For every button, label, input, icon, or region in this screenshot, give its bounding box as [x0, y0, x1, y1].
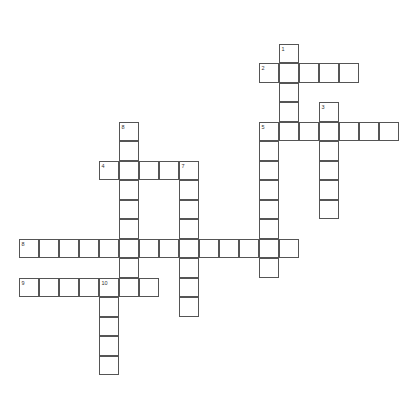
- crossword-cell[interactable]: [179, 297, 199, 317]
- clue-number: 1: [282, 46, 285, 52]
- crossword-cell[interactable]: [179, 278, 199, 298]
- crossword-cell[interactable]: [299, 122, 319, 142]
- crossword-grid: 12347588910: [0, 0, 418, 395]
- crossword-cell[interactable]: [239, 239, 259, 259]
- crossword-cell[interactable]: [119, 258, 139, 278]
- crossword-cell[interactable]: [159, 161, 179, 181]
- crossword-cell[interactable]: [179, 258, 199, 278]
- crossword-cell[interactable]: 10: [99, 278, 119, 298]
- crossword-cell[interactable]: [39, 278, 59, 298]
- crossword-cell[interactable]: [319, 161, 339, 181]
- crossword-cell[interactable]: [339, 122, 359, 142]
- clue-number: 7: [182, 163, 185, 169]
- clue-number: 9: [22, 280, 25, 286]
- crossword-cell[interactable]: [299, 63, 319, 83]
- crossword-cell[interactable]: [119, 200, 139, 220]
- crossword-cell[interactable]: [319, 180, 339, 200]
- crossword-cell[interactable]: 8: [119, 122, 139, 142]
- crossword-cell[interactable]: [99, 356, 119, 376]
- crossword-cell[interactable]: [259, 239, 279, 259]
- crossword-cell[interactable]: [319, 122, 339, 142]
- crossword-cell[interactable]: [179, 180, 199, 200]
- crossword-cell[interactable]: [319, 200, 339, 220]
- crossword-cell[interactable]: [99, 336, 119, 356]
- crossword-cell[interactable]: [59, 278, 79, 298]
- clue-number: 4: [102, 163, 105, 169]
- crossword-cell[interactable]: [179, 239, 199, 259]
- crossword-cell[interactable]: [139, 161, 159, 181]
- crossword-cell[interactable]: [259, 180, 279, 200]
- crossword-cell[interactable]: [99, 297, 119, 317]
- crossword-cell[interactable]: [139, 239, 159, 259]
- crossword-cell[interactable]: [119, 278, 139, 298]
- crossword-cell[interactable]: [119, 161, 139, 181]
- clue-number: 8: [122, 124, 125, 130]
- crossword-cell[interactable]: [39, 239, 59, 259]
- crossword-cell[interactable]: [99, 239, 119, 259]
- crossword-cell[interactable]: [179, 219, 199, 239]
- crossword-cell[interactable]: [79, 278, 99, 298]
- crossword-cell[interactable]: [379, 122, 399, 142]
- crossword-cell[interactable]: [259, 141, 279, 161]
- crossword-cell[interactable]: 1: [279, 44, 299, 64]
- crossword-cell[interactable]: [179, 200, 199, 220]
- crossword-cell[interactable]: [319, 141, 339, 161]
- crossword-cell[interactable]: [279, 83, 299, 103]
- crossword-cell[interactable]: 7: [179, 161, 199, 181]
- crossword-cell[interactable]: [59, 239, 79, 259]
- crossword-cell[interactable]: [119, 219, 139, 239]
- crossword-cell[interactable]: [99, 317, 119, 337]
- crossword-cell[interactable]: 5: [259, 122, 279, 142]
- crossword-cell[interactable]: [159, 239, 179, 259]
- crossword-cell[interactable]: [79, 239, 99, 259]
- crossword-cell[interactable]: [279, 122, 299, 142]
- crossword-cell[interactable]: 4: [99, 161, 119, 181]
- clue-number: 5: [262, 124, 265, 130]
- crossword-cell[interactable]: [259, 258, 279, 278]
- crossword-cell[interactable]: 2: [259, 63, 279, 83]
- crossword-cell[interactable]: [119, 239, 139, 259]
- crossword-cell[interactable]: [259, 200, 279, 220]
- crossword-cell[interactable]: [199, 239, 219, 259]
- crossword-cell[interactable]: [259, 219, 279, 239]
- crossword-cell[interactable]: [279, 63, 299, 83]
- crossword-cell[interactable]: [279, 102, 299, 122]
- crossword-cell[interactable]: 3: [319, 102, 339, 122]
- crossword-cell[interactable]: [359, 122, 379, 142]
- clue-number: 10: [102, 280, 108, 286]
- crossword-cell[interactable]: [119, 141, 139, 161]
- crossword-cell[interactable]: [219, 239, 239, 259]
- clue-number: 2: [262, 65, 265, 71]
- crossword-cell[interactable]: [139, 278, 159, 298]
- clue-number: 8: [22, 241, 25, 247]
- crossword-cell[interactable]: [259, 161, 279, 181]
- crossword-cell[interactable]: [119, 180, 139, 200]
- crossword-cell[interactable]: [319, 63, 339, 83]
- crossword-cell[interactable]: 9: [19, 278, 39, 298]
- crossword-cell[interactable]: [339, 63, 359, 83]
- crossword-cell[interactable]: 8: [19, 239, 39, 259]
- clue-number: 3: [322, 104, 325, 110]
- crossword-cell[interactable]: [279, 239, 299, 259]
